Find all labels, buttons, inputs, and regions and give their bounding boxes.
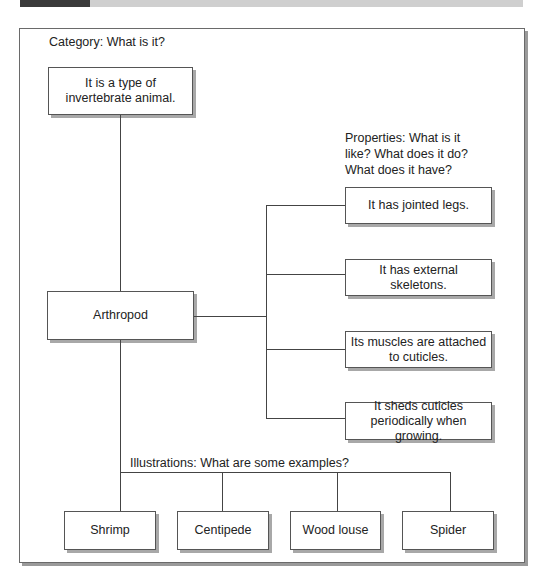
illustrations-branch-bar [120, 472, 451, 473]
category-heading: Category: What is it? [49, 34, 165, 50]
connector-category-arthropod [120, 115, 121, 291]
connector-arthropod-illustrations [120, 340, 121, 511]
property-box-4: It sheds cuticles periodically when grow… [345, 402, 492, 440]
illustration-box-shrimp: Shrimp [64, 511, 156, 550]
header-bar-light [90, 0, 523, 7]
properties-heading: Properties: What is it like? What does i… [345, 130, 485, 178]
arthropod-box: Arthropod [47, 291, 194, 340]
connector-property-4 [266, 418, 345, 419]
category-box: It is a type of invertebrate animal. [48, 67, 193, 115]
connector-illustration-3 [337, 472, 338, 511]
connector-illustration-2 [222, 472, 223, 511]
header-bar-dark [20, 0, 90, 7]
property-box-2: It has external skeletons. [345, 259, 492, 296]
illustration-box-spider: Spider [402, 511, 494, 550]
properties-branch-trunk [266, 205, 267, 419]
illustrations-heading: Illustrations: What are some examples? [130, 455, 349, 471]
property-box-1: It has jointed legs. [345, 187, 492, 224]
connector-property-3 [266, 349, 345, 350]
property-box-3: Its muscles are attached to cuticles. [345, 331, 492, 368]
connector-arthropod-properties [194, 316, 266, 317]
connector-property-1 [266, 205, 345, 206]
illustration-box-wood-louse: Wood louse [290, 511, 381, 550]
connector-property-2 [266, 274, 345, 275]
illustration-box-centipede: Centipede [177, 511, 269, 550]
connector-illustration-4 [450, 472, 451, 511]
